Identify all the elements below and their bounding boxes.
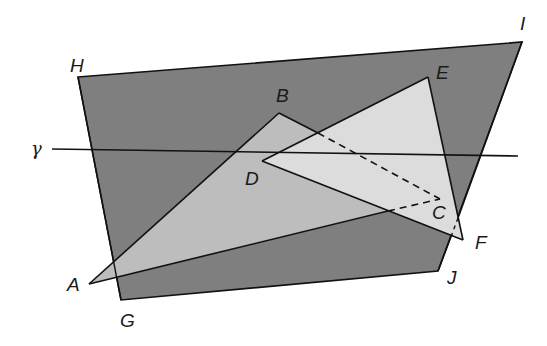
label-f: F: [475, 233, 487, 252]
geometry-diagram: H I E B γ D C F J A G: [0, 0, 547, 346]
diagram-canvas: [0, 0, 547, 346]
label-g: G: [120, 311, 135, 330]
label-d: D: [245, 169, 259, 188]
label-gamma: γ: [31, 140, 42, 158]
label-a: A: [67, 275, 80, 294]
label-b: B: [276, 86, 289, 105]
label-i: I: [520, 14, 525, 33]
label-j: J: [447, 268, 457, 287]
label-h: H: [70, 56, 84, 75]
label-c: C: [432, 203, 446, 222]
label-e: E: [436, 63, 449, 82]
